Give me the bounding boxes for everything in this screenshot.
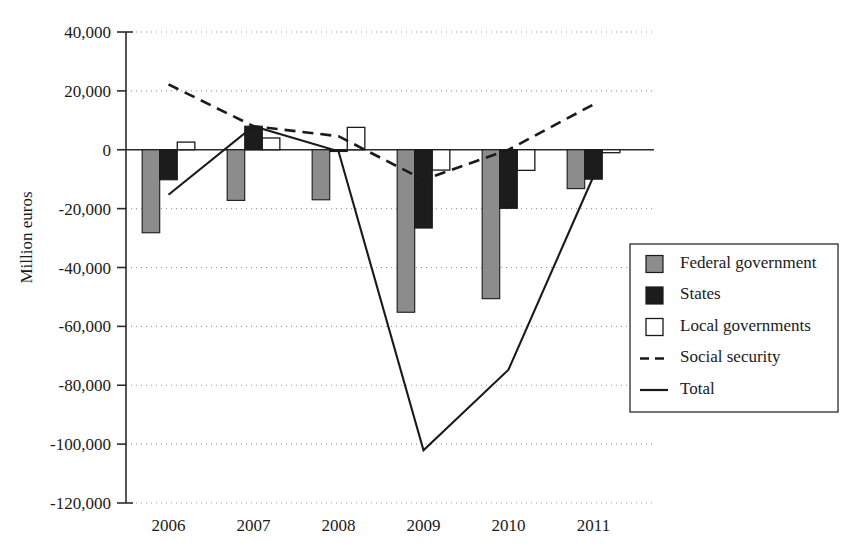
x-tick-label: 2011: [577, 516, 610, 535]
y-axis-title-label: Million euros: [17, 191, 36, 283]
y-tick-label: -20,000: [59, 200, 111, 219]
legend-swatch-local-icon: [646, 319, 663, 336]
x-tick-label: 2008: [322, 516, 356, 535]
y-tick-label: -60,000: [59, 317, 111, 336]
y-tick-label: -100,000: [50, 435, 111, 454]
x-tick-label: 2009: [407, 516, 441, 535]
bar-federal-government: [397, 150, 415, 313]
bar-local-governments: [432, 150, 450, 170]
bar-federal-government: [567, 150, 585, 189]
legend-item-label: Federal government: [680, 253, 817, 272]
legend-item-label: Local governments: [680, 316, 811, 335]
bar-series-group: [142, 126, 620, 312]
y-tick-label: -120,000: [50, 494, 111, 513]
legend-item-label: Total: [680, 379, 715, 398]
legend-item: States: [646, 284, 721, 304]
x-tick-label: 2007: [237, 516, 272, 535]
x-tick-label: 2010: [492, 516, 526, 535]
legend-swatch-states-icon: [646, 287, 663, 304]
y-axis-ticks: 40,00020,0000-20,000-40,000-60,000-80,00…: [50, 23, 126, 513]
bar-local-governments: [517, 150, 535, 171]
legend-swatch-federal-icon: [646, 256, 663, 273]
bar-federal-government: [312, 150, 330, 200]
bar-states: [415, 150, 433, 228]
y-tick-label: 20,000: [64, 82, 111, 101]
chart-figure: 40,00020,0000-20,000-40,000-60,000-80,00…: [0, 0, 861, 554]
y-tick-label: -80,000: [59, 376, 111, 395]
y-tick-label: 40,000: [64, 23, 111, 42]
y-tick-label: -40,000: [59, 259, 111, 278]
y-tick-label: 0: [103, 141, 112, 160]
bar-states: [160, 150, 178, 180]
y-axis-title: Million euros: [17, 191, 36, 283]
x-axis-ticks: 200620072008200920102011: [152, 516, 611, 535]
bar-local-governments: [602, 150, 620, 153]
bar-local-governments: [262, 138, 280, 150]
bar-states: [245, 126, 263, 150]
bar-federal-government: [142, 150, 160, 233]
bar-states: [585, 150, 603, 179]
chart-container: 40,00020,0000-20,000-40,000-60,000-80,00…: [0, 0, 861, 554]
legend-item-label: States: [680, 284, 721, 303]
bar-states: [500, 150, 518, 209]
chart-legend: Federal governmentStatesLocal government…: [630, 244, 838, 412]
bar-federal-government: [482, 150, 500, 299]
legend-item-label: Social security: [680, 347, 781, 366]
bar-local-governments: [177, 142, 195, 150]
bar-federal-government: [227, 150, 245, 201]
x-tick-label: 2006: [152, 516, 186, 535]
